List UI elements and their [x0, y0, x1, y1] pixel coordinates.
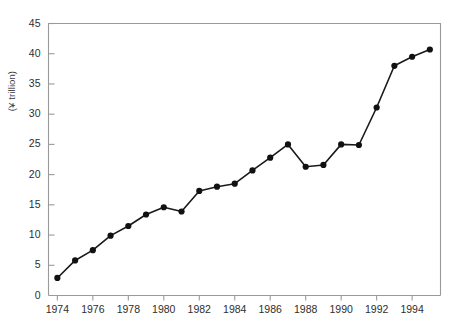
y-axis-tick-label: 40	[15, 47, 41, 59]
x-axis-tick-label: 1994	[390, 303, 434, 315]
data-point-marker	[249, 167, 255, 173]
data-point-marker	[107, 233, 113, 239]
data-point-marker	[214, 184, 220, 190]
y-axis-title: (¥ trillion)	[6, 46, 20, 136]
data-point-marker	[90, 247, 96, 253]
data-point-marker	[232, 181, 238, 187]
data-series-line	[57, 49, 429, 277]
data-point-marker	[72, 257, 78, 263]
line-chart-plot	[0, 0, 457, 328]
data-point-marker	[161, 204, 167, 210]
data-point-marker	[320, 162, 326, 168]
y-axis-tick-label: 10	[15, 228, 41, 240]
data-point-marker	[196, 188, 202, 194]
data-point-marker	[125, 223, 131, 229]
y-axis-tick-label: 30	[15, 107, 41, 119]
data-point-marker	[427, 46, 433, 52]
data-point-marker	[338, 141, 344, 147]
data-point-marker	[374, 104, 380, 110]
y-axis-tick-label: 45	[15, 17, 41, 29]
data-point-marker	[267, 155, 273, 161]
y-axis-tick-label: 35	[15, 77, 41, 89]
plot-frame	[49, 24, 441, 296]
data-point-marker	[178, 208, 184, 214]
y-axis-tick-label: 0	[15, 289, 41, 301]
data-point-marker	[285, 141, 291, 147]
y-axis-tick-label: 25	[15, 137, 41, 149]
data-point-marker	[143, 211, 149, 217]
data-point-marker	[54, 275, 60, 281]
y-axis-tick-label: 20	[15, 168, 41, 180]
data-point-marker	[356, 142, 362, 148]
y-axis-tick-label: 15	[15, 198, 41, 210]
chart-figure: (¥ trillion) 051015202530354045 19741976…	[0, 0, 457, 328]
data-point-marker	[391, 63, 397, 69]
data-point-marker	[303, 164, 309, 170]
data-point-marker	[409, 54, 415, 60]
y-axis-tick-label: 5	[15, 258, 41, 270]
